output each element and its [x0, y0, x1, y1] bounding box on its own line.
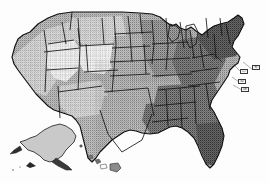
callout-box-ct[interactable]: CT [240, 69, 248, 74]
callout-box-de[interactable]: DE [241, 87, 249, 92]
us-county-choropleth-map: RI CT NJ DE United States County-Level C… [0, 0, 268, 183]
callout-box-ri[interactable]: RI [252, 65, 260, 70]
map-svg-canvas [0, 0, 268, 183]
callout-leader-lines [232, 62, 252, 90]
leader-line-1 [243, 62, 252, 69]
alaska-inset [10, 124, 76, 171]
callout-box-nj[interactable]: NJ [238, 79, 246, 84]
